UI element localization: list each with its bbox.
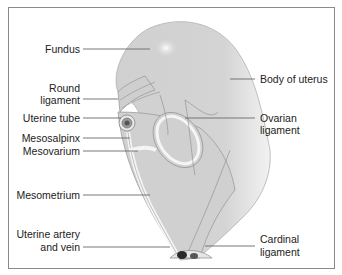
uterine-artery	[177, 251, 187, 259]
label-body-of-uterus: Body of uterus	[260, 73, 328, 85]
label-uterine-tube: Uterine tube	[23, 112, 80, 124]
uterine-vein	[190, 253, 198, 259]
label-mesosalpinx: Mesosalpinx	[22, 132, 80, 144]
label-ovarian-ligament-line1: Ovarian	[260, 112, 297, 124]
label-cardinal-ligament-line2: ligament	[260, 246, 300, 258]
label-uterine-artery-line1: Uterine artery	[16, 228, 80, 240]
label-round-ligament-line1: Round	[49, 82, 80, 94]
label-ovarian-ligament-line2: ligament	[260, 124, 300, 136]
label-mesovarium: Mesovarium	[23, 145, 80, 157]
label-round-ligament-line2: ligament	[40, 94, 80, 106]
label-fundus: Fundus	[45, 43, 80, 55]
label-mesometrium: Mesometrium	[16, 189, 80, 201]
label-cardinal-ligament-line1: Cardinal	[260, 233, 299, 245]
label-uterine-artery-line2: and vein	[40, 241, 80, 253]
fundus-highlight	[154, 38, 178, 58]
